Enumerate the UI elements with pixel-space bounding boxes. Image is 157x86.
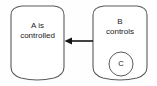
- node-b-group[interactable]: B controls C: [93, 6, 147, 80]
- circle-c-label: C: [118, 59, 124, 68]
- node-a-group[interactable]: A is controlled: [11, 6, 64, 80]
- diagram-svg: A is controlled B controls C: [0, 0, 157, 86]
- node-b-label-line1: B: [117, 17, 122, 26]
- diagram-canvas: A is controlled B controls C: [0, 0, 157, 86]
- arrowhead-left-icon: [65, 37, 73, 44]
- node-a-label-line2: controlled: [20, 31, 55, 40]
- node-a-shape[interactable]: [11, 6, 64, 80]
- edge-b-to-a[interactable]: [65, 37, 94, 44]
- node-a-label-line1: A is: [31, 21, 44, 30]
- node-b-label-line2: controls: [106, 27, 134, 36]
